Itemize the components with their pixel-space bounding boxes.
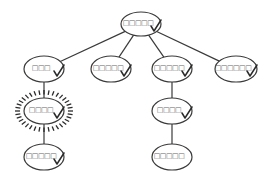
node-ellipse[interactable]: [91, 56, 131, 82]
node-ellipse[interactable]: [24, 144, 64, 170]
tree-node-n2[interactable]: [91, 56, 131, 82]
tree-node-root[interactable]: [121, 12, 161, 36]
tree-node-n3a1[interactable]: [152, 144, 192, 170]
tree-node-n1a[interactable]: [24, 98, 64, 124]
node-ellipse[interactable]: [152, 144, 192, 170]
node-ellipse[interactable]: [24, 56, 64, 82]
edge-root-n2: [119, 35, 134, 57]
tree-node-n3[interactable]: [152, 56, 192, 82]
nodes-layer: [24, 12, 257, 170]
node-ellipse[interactable]: [152, 56, 192, 82]
tree-diagram-canvas: [0, 0, 269, 181]
tree-node-n1[interactable]: [24, 56, 64, 82]
node-ellipse[interactable]: [215, 56, 257, 82]
node-ellipse[interactable]: [121, 12, 161, 36]
node-ellipse[interactable]: [24, 98, 64, 124]
node-ellipse[interactable]: [152, 98, 192, 124]
edge-root-n3: [149, 35, 164, 57]
tree-node-n1a1[interactable]: [24, 144, 64, 170]
tree-node-n4[interactable]: [215, 56, 257, 82]
edges-layer: [44, 31, 219, 144]
tree-node-n3a[interactable]: [152, 98, 192, 124]
tree-diagram: □□□□□□□□□□□□□□□□□□□□□□□□□□□□□□□□□□□□□□□□…: [0, 0, 269, 181]
